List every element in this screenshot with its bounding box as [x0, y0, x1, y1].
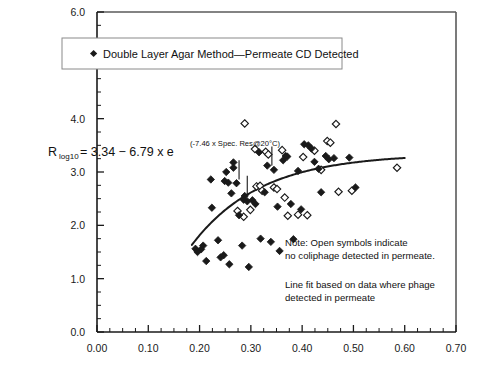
data-point-open-diamond	[304, 212, 311, 219]
data-point-open-diamond	[299, 153, 306, 160]
data-point-filled-diamond	[274, 203, 281, 210]
note-open-symbols: Note: Open symbols indicate no coliphage…	[285, 237, 435, 261]
data-point-filled-diamond	[207, 176, 214, 183]
data-point-filled-diamond	[230, 159, 237, 166]
x-tick-label: 0.30	[241, 342, 262, 354]
note-line-fit-line-2: detected in permeate	[285, 292, 375, 303]
data-point-filled-diamond	[208, 204, 215, 211]
equation-body: = 3.34 − 6.79 x e	[80, 145, 174, 159]
y-tick-label: 2.0	[70, 219, 85, 231]
y-tick-label: 4.0	[70, 113, 85, 125]
data-point-filled-diamond	[346, 154, 353, 161]
data-point-filled-diamond	[276, 247, 283, 254]
data-point-open-diamond	[281, 194, 288, 201]
data-point-filled-diamond	[267, 238, 274, 245]
fit-equation-annotation: R log10 = 3.34 − 6.79 x e (-7.46 x Spec.…	[48, 139, 281, 161]
x-axis-ticks	[97, 325, 456, 332]
equation-r-subscript: log10	[59, 152, 79, 161]
x-tick-label: 0.40	[292, 342, 313, 354]
data-point-open-diamond	[247, 206, 254, 213]
data-point-filled-diamond	[287, 200, 294, 207]
data-point-open-diamond	[335, 188, 342, 195]
data-point-open-diamond	[241, 120, 248, 127]
x-tick-label: 0.10	[138, 342, 159, 354]
chart-figure: 0.000.100.200.300.400.500.600.70 0.01.02…	[0, 0, 477, 365]
data-point-filled-diamond	[203, 257, 210, 264]
y-tick-label: 1.0	[70, 273, 85, 285]
note-open-symbols-line-2: no coliphage detected in permeate.	[285, 250, 435, 261]
y-tick-label: 6.0	[70, 6, 85, 18]
data-point-filled-diamond	[214, 237, 221, 244]
y-tick-label: 3.0	[70, 166, 85, 178]
data-point-open-diamond	[332, 120, 339, 127]
data-point-filled-diamond	[311, 158, 318, 165]
data-point-open-diamond	[284, 212, 291, 219]
x-axis-tick-labels: 0.000.100.200.300.400.500.600.70	[87, 342, 467, 354]
data-point-filled-diamond	[226, 261, 233, 268]
note-open-symbols-line-1: Note: Open symbols indicate	[285, 237, 408, 248]
data-point-filled-diamond	[233, 180, 240, 187]
scatter-plot: 0.000.100.200.300.400.500.600.70 0.01.02…	[0, 0, 477, 365]
data-point-filled-diamond	[270, 166, 277, 173]
x-tick-label: 0.50	[343, 342, 364, 354]
legend-box: Double Layer Agar Method—Permeate CD Det…	[62, 38, 359, 69]
data-point-filled-diamond	[228, 190, 235, 197]
data-point-open-diamond	[393, 164, 400, 171]
data-point-filled-diamond	[223, 168, 230, 175]
data-point-filled-diamond	[238, 242, 245, 249]
y-tick-label: 0.0	[70, 326, 85, 338]
data-point-filled-diamond	[245, 263, 252, 270]
data-point-filled-diamond	[257, 235, 264, 242]
note-line-fit-line-1: Line fit based on data where phage	[285, 279, 435, 290]
equation-r-symbol: R	[48, 145, 57, 159]
legend-item-label: Double Layer Agar Method—Permeate CD Det…	[103, 48, 359, 60]
x-tick-label: 0.70	[446, 342, 467, 354]
x-tick-label: 0.00	[87, 342, 108, 354]
note-line-fit: Line fit based on data where phage detec…	[285, 279, 435, 303]
x-tick-label: 0.60	[394, 342, 415, 354]
equation-exponent: (-7.46 x Spec. Res@20°C)	[190, 139, 281, 148]
x-tick-label: 0.20	[189, 342, 210, 354]
data-point-filled-diamond	[264, 162, 271, 169]
data-point-filled-diamond	[317, 189, 324, 196]
